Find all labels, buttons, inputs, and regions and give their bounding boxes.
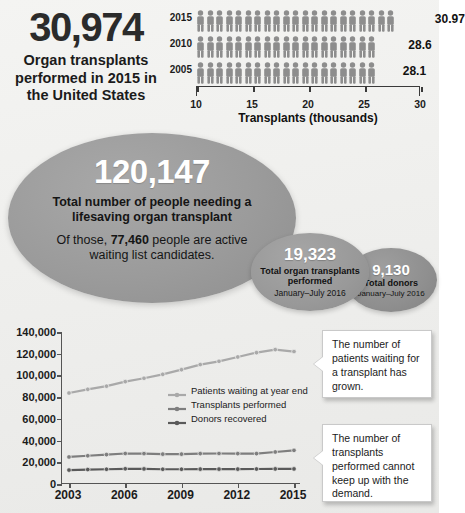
line-chart-data-point xyxy=(104,384,109,389)
pictogram-row: 200528.1 xyxy=(168,60,439,84)
person-icon xyxy=(301,62,310,84)
line-chart-data-point xyxy=(235,355,240,360)
callout-transplant-demand-text: The number of transplants performed cann… xyxy=(332,432,414,499)
pictogram-row-value: 28.6 xyxy=(408,38,431,52)
person-icon xyxy=(358,62,367,84)
person-icon xyxy=(263,36,272,58)
line-chart-x-label: 2015 xyxy=(280,488,307,502)
person-icon xyxy=(234,10,243,32)
callout-patients-waiting: The number of patients waiting for a tra… xyxy=(322,330,432,398)
line-chart-data-point xyxy=(292,467,297,472)
line-chart-data-point xyxy=(85,453,90,458)
person-icon xyxy=(234,62,243,84)
person-icon xyxy=(310,10,319,32)
main-statistic-number: 120,147 xyxy=(94,155,210,188)
person-icon xyxy=(225,62,234,84)
person-icon xyxy=(329,10,338,32)
person-icon xyxy=(367,10,376,32)
person-icon xyxy=(339,10,348,32)
line-chart-data-point xyxy=(104,452,109,457)
line-chart-data-point xyxy=(198,362,203,367)
pictogram-axis-tick xyxy=(421,87,423,92)
callout-transplant-demand: The number of transplants performed cann… xyxy=(322,424,432,502)
pictogram-row-value: 28.1 xyxy=(403,64,426,78)
line-chart-data-point xyxy=(273,347,278,352)
person-icon xyxy=(263,10,272,32)
line-chart-y-tick xyxy=(57,397,62,399)
line-chart-x-label: 2006 xyxy=(111,488,138,502)
line-chart-data-point xyxy=(179,367,184,372)
legend-item: Transplants performed xyxy=(168,399,318,410)
person-icon xyxy=(253,36,262,58)
pictogram-row: 201530.97 xyxy=(168,8,439,32)
person-icon xyxy=(272,36,281,58)
pictogram-axis-tick-label: 20 xyxy=(302,98,314,110)
line-chart-y-tick xyxy=(57,332,62,334)
line-chart-data-point xyxy=(273,450,278,455)
person-icon xyxy=(358,36,367,58)
note-prefix: Of those, xyxy=(56,233,110,247)
person-icon xyxy=(206,62,215,84)
pictogram-axis-tick xyxy=(309,87,311,92)
line-chart-data-point xyxy=(254,467,259,472)
person-icon xyxy=(282,10,291,32)
line-chart-data-point xyxy=(160,452,165,457)
transplants-period: January–July 2016 xyxy=(274,288,345,298)
person-icon xyxy=(301,36,310,58)
line-chart-y-tick xyxy=(57,462,62,464)
person-icon xyxy=(310,36,319,58)
line-chart-data-point xyxy=(142,376,147,381)
person-icon xyxy=(367,36,376,58)
line-chart-y-label: 100,000 xyxy=(0,369,56,381)
person-icon xyxy=(272,10,281,32)
person-icon xyxy=(348,36,357,58)
legend-item: Patients waiting at year end xyxy=(168,385,318,396)
line-chart-data-point xyxy=(235,451,240,456)
person-icon xyxy=(234,36,243,58)
person-icon xyxy=(348,10,357,32)
line-chart-data-point xyxy=(217,359,222,364)
person-icon xyxy=(215,10,224,32)
main-statistic-subtitle: Total number of people needing a lifesav… xyxy=(45,195,260,225)
pictogram-axis-tick-label: 30 xyxy=(414,98,426,110)
person-icon xyxy=(348,62,357,84)
person-icon xyxy=(253,62,262,84)
pictogram-axis-tick xyxy=(365,87,367,92)
headline-caption: Organ transplants performed in 2015 in t… xyxy=(0,52,172,105)
person-icon xyxy=(272,62,281,84)
line-chart-data-point xyxy=(85,387,90,392)
legend-label: Patients waiting at year end xyxy=(191,385,308,396)
line-chart-y-label: 20,000 xyxy=(0,456,56,468)
line-chart-data-point xyxy=(217,451,222,456)
line-chart-data-point xyxy=(273,467,278,472)
line-chart-data-point xyxy=(123,467,128,472)
line-chart-data-point xyxy=(67,391,72,396)
pictogram-axis-tick xyxy=(197,87,199,92)
line-chart-data-point xyxy=(123,451,128,456)
pictogram-axis-tick xyxy=(253,87,255,92)
person-icon xyxy=(320,62,329,84)
person-icon xyxy=(215,36,224,58)
line-chart-data-point xyxy=(104,467,109,472)
person-icon xyxy=(206,10,215,32)
person-icon xyxy=(339,36,348,58)
person-icon xyxy=(358,10,367,32)
line-chart-data-point xyxy=(67,468,72,473)
person-icon xyxy=(225,36,234,58)
pictogram-row-figures xyxy=(196,60,376,84)
person-icon xyxy=(320,10,329,32)
line-chart-y-tick xyxy=(57,441,62,443)
headline-block: 30,974 Organ transplants performed in 20… xyxy=(0,6,172,105)
line-chart-y-label: 0 xyxy=(0,478,56,490)
line-chart-x-label: 2009 xyxy=(167,488,194,502)
person-icon xyxy=(215,62,224,84)
line-chart-y-tick xyxy=(57,354,62,356)
person-icon xyxy=(291,62,300,84)
pictogram-row-value: 30.97 xyxy=(435,12,465,26)
person-icon xyxy=(377,10,386,32)
main-statistic-note: Of those, 77,460 people are active waiti… xyxy=(42,233,262,264)
line-chart-data-point xyxy=(198,451,203,456)
line-chart-y-label: 40,000 xyxy=(0,435,56,447)
person-icon xyxy=(320,36,329,58)
line-chart-data-point xyxy=(198,467,203,472)
